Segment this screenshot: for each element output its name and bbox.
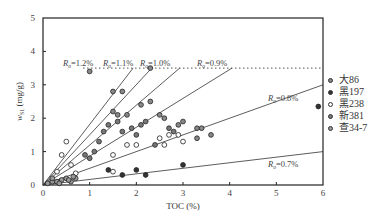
data-point <box>66 178 71 183</box>
legend-marker-icon <box>328 78 333 83</box>
legend: 大86 黑197 黑238 新381 查34-7 <box>328 74 367 134</box>
reference-line-label: Ro=0.8% <box>267 93 298 104</box>
legend-item: 黑197 <box>328 86 367 98</box>
reference-line-label: Ro=1.0% <box>139 58 170 69</box>
data-point <box>115 119 120 124</box>
data-point <box>101 129 106 134</box>
legend-marker-icon <box>328 114 333 119</box>
data-point <box>181 119 186 124</box>
data-point <box>176 133 181 138</box>
data-point <box>316 104 321 109</box>
legend-item: 查34-7 <box>328 122 367 134</box>
reference-line-label: Ro=0.9% <box>196 58 227 69</box>
data-point <box>195 126 200 131</box>
data-point <box>129 126 134 131</box>
data-point <box>92 149 97 154</box>
x-tick-label: 1 <box>87 188 92 198</box>
legend-label: 黑197 <box>339 86 364 98</box>
chart-canvas: 0123456012345TOC (%)wS1 (mg/g)Ro=1.2%Ro=… <box>0 0 380 219</box>
legend-marker-icon <box>328 102 333 107</box>
data-point <box>111 169 116 174</box>
reference-line-label: Ro=1.1% <box>102 58 133 69</box>
data-point <box>115 112 120 117</box>
x-tick-label: 3 <box>181 188 186 198</box>
data-point <box>134 143 139 148</box>
legend-label: 黑238 <box>339 98 364 110</box>
data-point <box>162 143 167 148</box>
data-point <box>111 153 116 158</box>
y-tick-label: 3 <box>31 80 36 90</box>
reference-line <box>43 68 180 185</box>
data-point <box>50 176 55 181</box>
legend-label: 大86 <box>339 74 359 86</box>
data-point <box>87 156 92 161</box>
data-point <box>209 133 214 138</box>
x-tick-label: 5 <box>274 188 279 198</box>
data-point <box>45 181 50 186</box>
data-point <box>106 122 111 127</box>
data-point <box>64 139 69 144</box>
data-point <box>134 168 139 173</box>
data-point <box>125 143 130 148</box>
reference-line-label: Ro=0.7% <box>267 159 298 170</box>
y-tick-label: 1 <box>31 147 36 157</box>
y-tick-label: 0 <box>31 180 36 190</box>
data-point <box>143 173 148 178</box>
legend-marker-icon <box>328 126 333 131</box>
x-tick-label: 2 <box>134 188 139 198</box>
data-point <box>120 173 125 178</box>
data-point <box>97 139 102 144</box>
data-point <box>157 136 162 141</box>
legend-label: 新381 <box>339 110 364 122</box>
legend-item: 新381 <box>328 110 367 122</box>
data-point <box>167 126 172 131</box>
data-point <box>171 129 176 134</box>
data-point <box>71 174 76 179</box>
y-tick-label: 4 <box>31 46 36 56</box>
data-point <box>83 153 88 158</box>
data-point <box>148 66 153 71</box>
data-point <box>59 153 64 158</box>
data-point <box>57 181 62 186</box>
data-point <box>55 169 60 174</box>
reference-line-label: Ro=1.2% <box>62 58 93 69</box>
data-point <box>199 126 204 131</box>
data-point <box>111 89 116 94</box>
y-tick-label: 2 <box>31 113 36 123</box>
data-point <box>120 129 125 134</box>
data-point <box>167 133 172 138</box>
x-tick-label: 6 <box>321 188 326 198</box>
legend-label: 查34-7 <box>339 122 367 134</box>
data-point <box>139 102 144 107</box>
reference-line <box>43 68 133 185</box>
data-point <box>181 163 186 168</box>
data-point <box>162 116 167 121</box>
data-point <box>87 69 92 74</box>
x-axis-label: TOC (%) <box>166 201 200 211</box>
y-axis-label: wS1 (mg/g) <box>14 82 25 121</box>
data-point <box>111 109 116 114</box>
y-tick-label: 5 <box>31 13 36 23</box>
data-point <box>195 136 200 141</box>
data-point <box>143 119 148 124</box>
data-point <box>153 143 158 148</box>
x-tick-label: 0 <box>41 188 46 198</box>
x-tick-label: 4 <box>227 188 232 198</box>
data-point <box>176 122 181 127</box>
legend-marker-icon <box>328 90 333 95</box>
data-point <box>139 122 144 127</box>
data-point <box>157 112 162 117</box>
data-point <box>134 133 139 138</box>
data-point <box>69 163 74 168</box>
data-point <box>181 139 186 144</box>
data-point <box>120 89 125 94</box>
data-point <box>148 99 153 104</box>
data-point <box>106 168 111 173</box>
legend-item: 大86 <box>328 74 367 86</box>
legend-item: 黑238 <box>328 98 367 110</box>
data-point <box>125 112 130 117</box>
